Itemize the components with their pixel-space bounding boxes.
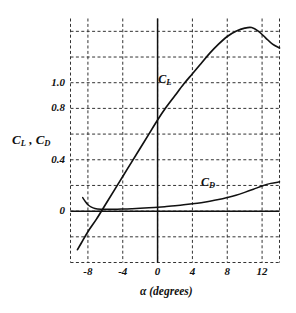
- cl-curve-label: CL: [158, 73, 171, 87]
- airfoil-lift-drag-chart: 0 0.4 0.8 1.0 -8 -4 0 4 8 12 CL , CD α (…: [0, 0, 296, 313]
- x-tick-label-12: 12: [250, 266, 274, 277]
- x-tick-label-minus8: -8: [76, 266, 100, 277]
- cl-curve: [77, 27, 279, 249]
- x-tick-label-0: 0: [146, 266, 170, 277]
- y-axis-title: CL , CD: [12, 133, 50, 148]
- cd-curve-label: CD: [201, 176, 215, 190]
- y-axis-title-separator: ,: [26, 132, 36, 147]
- cl-label-sub: L: [166, 78, 171, 88]
- axis-lines: [71, 19, 280, 263]
- x-tick-label-4: 4: [180, 266, 204, 277]
- vertical-gridlines: [71, 19, 280, 263]
- cd-label-c: C: [201, 175, 209, 189]
- y-axis-title-c1: C: [12, 132, 21, 147]
- y-tick-label-08: 0.8: [40, 102, 65, 113]
- cd-curve: [83, 182, 280, 210]
- horizontal-gridlines: [71, 31, 280, 262]
- x-tick-label-8: 8: [215, 266, 239, 277]
- y-tick-label-04: 0.4: [40, 154, 65, 165]
- cd-label-sub: D: [209, 180, 215, 190]
- x-tick-label-minus4: -4: [111, 266, 135, 277]
- y-axis-title-sub-d: D: [44, 138, 50, 148]
- y-tick-label-10: 1.0: [40, 77, 65, 88]
- y-tick-label-0: 0: [40, 205, 65, 216]
- x-axis-title: α (degrees): [140, 286, 193, 298]
- y-axis-title-c2: C: [36, 132, 45, 147]
